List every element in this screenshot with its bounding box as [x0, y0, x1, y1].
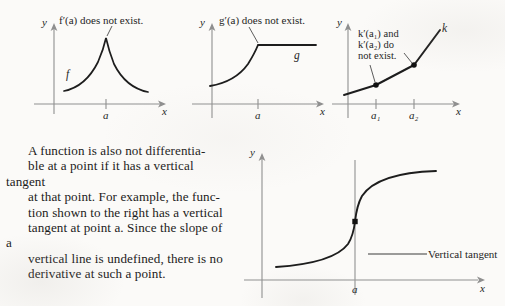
- textbook-page: y x a f f′(a) does not exist. y x a g g′…: [0, 0, 505, 306]
- corner-point-a1: [373, 82, 379, 88]
- y-axis-label: y: [199, 16, 205, 28]
- paragraph-line-2: ble at a point if it has a vertical tang…: [6, 158, 228, 189]
- caption-leader-line: [249, 27, 258, 43]
- caption-leader-line-a1: [370, 65, 375, 82]
- x-tick-label-a: a: [103, 109, 109, 121]
- paragraph-line-7: derivative at such a point.: [6, 266, 228, 281]
- vertical-tangent-annotation: Vertical tangent: [428, 248, 497, 260]
- y-axis-label: y: [41, 16, 47, 28]
- paragraph-line-6: vertical line is undefined, there is no: [6, 251, 228, 266]
- figure-g-corner-graphic: y x a g g′(a) does not exist.: [186, 14, 336, 126]
- figure-f-cusp-graphic: y x a f f′(a) does not exist.: [28, 14, 174, 126]
- tangent-point-marker: [352, 219, 357, 224]
- figure-g-corner: y x a g g′(a) does not exist.: [186, 14, 336, 126]
- figure-caption-line-3: not exist.: [358, 50, 397, 61]
- figure-k-corners-graphic: y x a₁ a₂ k k′(a₁) and k′(a₂) do not exi…: [330, 8, 500, 126]
- curve-label-g: g: [294, 49, 300, 62]
- paragraph-line-3: at that point. For example, the func-: [6, 189, 228, 204]
- x-tick-label-a1: a₁: [371, 109, 381, 121]
- x-tick-label-a: a: [352, 283, 358, 295]
- curve-label-k: k: [442, 22, 448, 34]
- curve-g: [210, 45, 316, 86]
- x-axis-label: x: [455, 105, 461, 117]
- paragraph-line-4: tion shown to the right has a vertical: [6, 205, 228, 220]
- figure-k-corners: y x a₁ a₂ k k′(a₁) and k′(a₂) do not exi…: [330, 8, 500, 126]
- x-axis-label: x: [479, 282, 485, 294]
- x-tick-label-a2: a₂: [409, 109, 419, 121]
- paragraph-line-1: A function is also not differentia-: [6, 143, 228, 158]
- caption-leader-line: [107, 26, 112, 36]
- curve-f: [64, 38, 148, 92]
- y-axis-label: y: [336, 16, 342, 28]
- figure-caption: g′(a) does not exist.: [219, 14, 305, 27]
- corner-point-a2: [411, 62, 417, 68]
- x-tick-label-a: a: [255, 109, 261, 121]
- x-axis-label: x: [319, 105, 325, 117]
- y-axis-label: y: [249, 146, 255, 158]
- paragraph-line-5: tangent at point a. Since the slope of a: [6, 220, 228, 251]
- figure-vertical-tangent-graphic: y x a Vertical tangent: [240, 140, 505, 306]
- curve-label-f: f: [66, 68, 71, 81]
- figure-f-cusp: y x a f f′(a) does not exist.: [28, 14, 174, 126]
- body-paragraph: A function is also not differentia- ble …: [6, 143, 228, 282]
- figure-vertical-tangent: y x a Vertical tangent: [240, 140, 505, 306]
- caption-leader-line-a2: [404, 53, 412, 63]
- figure-caption: f′(a) does not exist.: [59, 14, 144, 27]
- x-axis-label: x: [161, 105, 167, 117]
